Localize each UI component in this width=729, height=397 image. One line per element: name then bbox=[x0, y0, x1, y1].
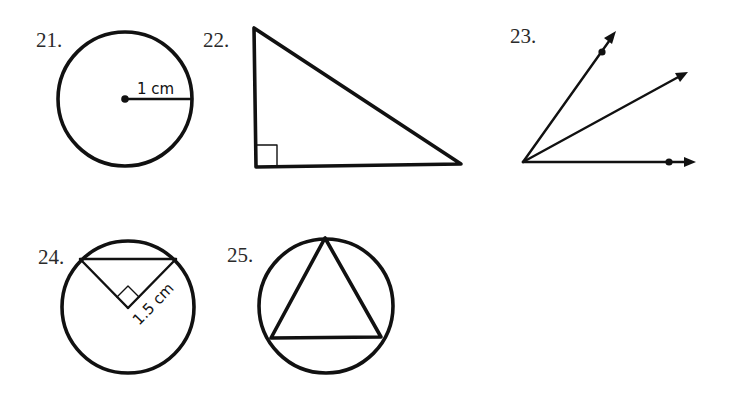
ray-upper bbox=[523, 37, 612, 162]
problem-number: 23. bbox=[510, 24, 536, 48]
right-triangle bbox=[254, 28, 461, 167]
problem-24: 24. 1.5 cm bbox=[38, 241, 194, 373]
problem-25: 25. bbox=[227, 238, 393, 373]
center-point bbox=[121, 95, 129, 103]
arrowhead-icon bbox=[684, 157, 696, 167]
problem-number: 21. bbox=[36, 28, 62, 52]
ray-middle bbox=[523, 75, 682, 162]
arrowhead-icon bbox=[604, 31, 616, 44]
problem-23: 23. bbox=[510, 24, 696, 167]
problem-22: 22. bbox=[203, 28, 461, 167]
problem-number: 25. bbox=[227, 243, 253, 267]
problem-number: 22. bbox=[203, 28, 229, 52]
problem-21: 21. 1 cm bbox=[36, 28, 192, 166]
right-angle-marker bbox=[257, 145, 277, 166]
circle bbox=[259, 239, 393, 373]
radius-left bbox=[80, 259, 128, 308]
problem-number: 24. bbox=[38, 245, 64, 269]
right-angle-marker bbox=[117, 286, 139, 297]
geometry-figures: 21. 1 cm 22. 23. 24. 1.5 cm 25. bbox=[0, 0, 729, 397]
radius-label: 1 cm bbox=[137, 80, 174, 98]
point-on-ray bbox=[598, 48, 605, 55]
point-on-ray bbox=[665, 158, 672, 165]
radius-label: 1.5 cm bbox=[129, 279, 178, 329]
